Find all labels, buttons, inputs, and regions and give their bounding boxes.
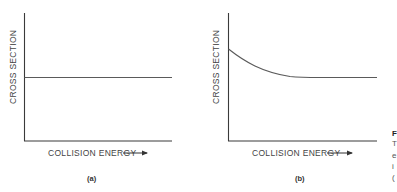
y-axis-label: CROSS SECTION (211, 30, 221, 104)
caption-line: F (392, 129, 397, 138)
caption-fragment: F T e i ( (392, 129, 397, 182)
panel-b: CROSS SECTION COLLISION ENERGY (b) (211, 13, 377, 183)
y-axis-label: CROSS SECTION (8, 30, 18, 104)
panel-label: (b) (295, 174, 305, 183)
panel-label: (a) (87, 174, 97, 183)
caption-line: e (392, 151, 397, 160)
panel-a: CROSS SECTION COLLISION ENERGY (a) (8, 13, 172, 183)
figure: CROSS SECTION COLLISION ENERGY (a) CROSS… (0, 0, 397, 192)
data-curve-decay (229, 49, 378, 78)
caption-line: ( (392, 173, 395, 182)
caption-line: i (392, 162, 394, 171)
caption-line: T (392, 139, 397, 148)
